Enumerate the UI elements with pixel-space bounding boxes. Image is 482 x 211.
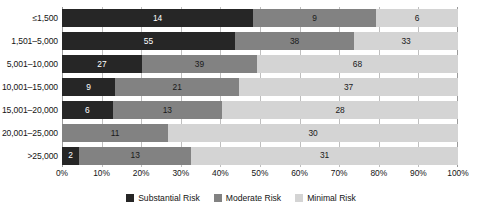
legend-label: Moderate Risk	[226, 193, 281, 203]
y-axis-label: 5,001–10,000	[0, 59, 58, 69]
y-axis-label: ≤1,500	[0, 13, 58, 23]
x-axis-tick-labels: 0%10%20%30%40%50%60%70%80%90%100%	[62, 168, 458, 182]
bar-segment-moderate: 13	[113, 101, 223, 119]
bar-segment-minimal: 31	[191, 147, 458, 165]
bar-segment-substantial: 55	[62, 32, 235, 50]
x-axis-tick: 0%	[56, 168, 68, 178]
legend-swatch-substantial	[126, 194, 134, 202]
bar-segment-value: 38	[290, 37, 299, 45]
bar-segment-value: 6	[85, 106, 90, 114]
bar-segment-moderate: 13	[79, 147, 191, 165]
bar-segment-substantial: 9	[62, 78, 115, 96]
y-axis-label: 20,001–25,000	[0, 128, 58, 138]
x-axis-tick: 70%	[331, 168, 348, 178]
bar-segment-substantial: 6	[62, 101, 113, 119]
bar-segment-value: 21	[173, 83, 182, 91]
x-axis-tick: 80%	[370, 168, 387, 178]
y-axis-label: >25,000	[0, 151, 58, 161]
x-axis-tick: 40%	[212, 168, 229, 178]
bar-segment-value: 31	[320, 151, 329, 159]
bar-row: 1496	[62, 9, 458, 27]
bar-segment-moderate: 9	[253, 9, 376, 27]
bar-segment-minimal: 28	[222, 101, 458, 119]
bar-segment-substantial: 2	[62, 147, 79, 165]
chart-legend: Substantial RiskModerate RiskMinimal Ris…	[0, 190, 482, 206]
bar-segment-value: 6	[415, 14, 420, 22]
bar-segment-value: 33	[401, 37, 410, 45]
bar-row: 61328	[62, 101, 458, 119]
y-axis-label: 15,001–20,000	[0, 105, 58, 115]
bar-segment-moderate: 11	[62, 124, 168, 142]
bar-segment-value: 28	[335, 106, 344, 114]
y-axis-label: 1,501–5,000	[0, 36, 58, 46]
bar-segment-value: 2	[68, 151, 73, 159]
bar-segment-value: 68	[353, 60, 362, 68]
legend-item-minimal[interactable]: Minimal Risk	[295, 193, 356, 203]
legend-swatch-minimal	[295, 194, 303, 202]
bar-row: 21331	[62, 147, 458, 165]
plot-area: 14965538332739689213761328113021331	[62, 7, 458, 167]
bar-segment-substantial: 27	[62, 55, 142, 73]
bar-segment-minimal: 30	[168, 124, 458, 142]
legend-swatch-moderate	[214, 194, 222, 202]
bar-segment-moderate: 21	[115, 78, 239, 96]
bar-segment-value: 14	[153, 14, 162, 22]
x-axis-tick: 10%	[93, 168, 110, 178]
x-axis-tick: 90%	[410, 168, 427, 178]
bar-row: 92137	[62, 78, 458, 96]
bar-segment-value: 13	[131, 151, 140, 159]
bar-rows: 14965538332739689213761328113021331	[62, 7, 458, 167]
bar-segment-value: 30	[308, 129, 317, 137]
legend-item-moderate[interactable]: Moderate Risk	[214, 193, 281, 203]
bar-segment-value: 27	[97, 60, 106, 68]
bar-segment-moderate: 39	[142, 55, 257, 73]
x-axis-tick: 50%	[252, 168, 269, 178]
legend-label: Minimal Risk	[307, 193, 356, 203]
bar-segment-value: 11	[111, 129, 120, 137]
bar-segment-minimal: 33	[354, 32, 458, 50]
bar-segment-minimal: 6	[376, 9, 458, 27]
bar-row: 553833	[62, 32, 458, 50]
x-axis-tick: 20%	[133, 168, 150, 178]
x-axis-tick: 60%	[291, 168, 308, 178]
x-axis-tick: 30%	[172, 168, 189, 178]
y-axis-label: 10,001–15,000	[0, 82, 58, 92]
bar-segment-substantial: 14	[62, 9, 253, 27]
x-axis-tick: 100%	[447, 168, 468, 178]
legend-label: Substantial Risk	[138, 193, 200, 203]
bar-segment-value: 9	[86, 83, 91, 91]
bar-segment-minimal: 68	[257, 55, 458, 73]
bar-segment-value: 55	[144, 37, 153, 45]
bar-segment-value: 9	[312, 14, 317, 22]
bar-segment-value: 39	[195, 60, 204, 68]
y-axis-category-labels: ≤1,5001,501–5,0005,001–10,00010,001–15,0…	[0, 7, 58, 167]
bar-segment-value: 13	[163, 106, 172, 114]
stacked-bar-chart: ≤1,5001,501–5,0005,001–10,00010,001–15,0…	[0, 0, 482, 211]
bar-segment-moderate: 38	[235, 32, 354, 50]
bar-segment-value: 37	[344, 83, 353, 91]
legend-item-substantial[interactable]: Substantial Risk	[126, 193, 200, 203]
bar-row: 1130	[62, 124, 458, 142]
bar-row: 273968	[62, 55, 458, 73]
bar-segment-minimal: 37	[239, 78, 458, 96]
